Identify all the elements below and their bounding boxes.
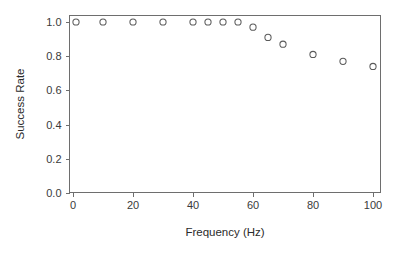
y-tick-label: 1.0 — [46, 16, 61, 28]
y-tick-label: 0.2 — [46, 153, 61, 165]
y-tick-label: 0.6 — [46, 84, 61, 96]
y-tick-label: 0.8 — [46, 50, 61, 62]
x-tick-label: 0 — [70, 199, 76, 211]
y-tick-label: 0.4 — [46, 119, 61, 131]
x-tick-label: 80 — [307, 199, 319, 211]
x-tick-label: 60 — [247, 199, 259, 211]
x-axis-title: Frequency (Hz) — [185, 226, 264, 238]
chart-figure: 020406080100 0.00.20.40.60.81.0 Frequenc… — [0, 0, 398, 254]
x-tick-label: 100 — [364, 199, 382, 211]
y-tick-label: 0.0 — [46, 187, 61, 199]
x-tick-label: 20 — [127, 199, 139, 211]
x-tick-label: 40 — [187, 199, 199, 211]
scatter-plot-canvas: 020406080100 0.00.20.40.60.81.0 Frequenc… — [0, 0, 398, 254]
y-axis-title: Success Rate — [14, 69, 26, 140]
